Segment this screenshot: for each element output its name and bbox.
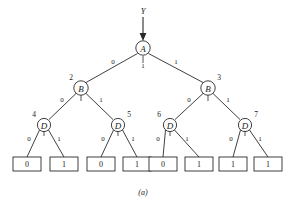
node-d5-index: 5 bbox=[127, 110, 131, 119]
edge-label-b2-left: 0 bbox=[60, 96, 64, 104]
node-d6-index: 6 bbox=[157, 110, 161, 119]
node-b2[interactable]: B 2 bbox=[69, 73, 88, 96]
node-d7[interactable]: D 7 bbox=[238, 110, 258, 132]
leaf-value-3: 0 bbox=[99, 160, 103, 169]
leaf-value-1: 0 bbox=[25, 160, 29, 169]
node-b3-letter: B bbox=[205, 84, 211, 94]
node-d7-index: 7 bbox=[254, 110, 258, 119]
input-arrow-group: Y bbox=[140, 6, 147, 41]
node-b2-index: 2 bbox=[69, 73, 73, 82]
node-b2-letter: B bbox=[78, 84, 84, 94]
leaf-node-6[interactable]: 1 bbox=[185, 157, 213, 171]
figure-container: Y 0 1 1 0 1 bbox=[0, 0, 287, 206]
node-a[interactable]: A bbox=[136, 41, 150, 55]
input-arrow-head bbox=[140, 33, 147, 41]
leaf-node-2[interactable]: 1 bbox=[50, 157, 78, 171]
edge-label-d5-right: 1 bbox=[131, 135, 135, 143]
leaf-node-5[interactable]: 0 bbox=[149, 157, 177, 171]
leaf-value-5: 0 bbox=[161, 160, 165, 169]
edge-label-b3-right: 1 bbox=[226, 96, 230, 104]
leaf-value-2: 1 bbox=[62, 160, 66, 169]
node-d4-index: 4 bbox=[32, 110, 36, 119]
node-d4-letter: D bbox=[40, 121, 48, 131]
edge-label-b3-left: 0 bbox=[187, 96, 191, 104]
edge-label-d7-left: 0 bbox=[229, 135, 233, 143]
leaf-node-7[interactable]: 1 bbox=[219, 157, 247, 171]
node-d4[interactable]: D 4 bbox=[32, 110, 50, 132]
node-d7-letter: D bbox=[241, 121, 249, 131]
node-d6[interactable]: D 6 bbox=[157, 110, 176, 132]
edge-d4-to-leaf2 bbox=[49, 130, 65, 157]
edge-label-b2-right: 1 bbox=[99, 96, 103, 104]
edge-d5-to-leaf4 bbox=[123, 130, 138, 157]
node-b3[interactable]: B 3 bbox=[201, 73, 221, 96]
node-d5-letter: D bbox=[114, 121, 122, 131]
leaf-node-8[interactable]: 1 bbox=[254, 157, 282, 171]
node-d5[interactable]: D 5 bbox=[111, 110, 131, 132]
edge-d6-to-leaf5 bbox=[163, 130, 166, 157]
edge-label-d4-left: 0 bbox=[27, 135, 31, 143]
figure-caption: (a) bbox=[138, 188, 148, 197]
edge-label-d6-left: 0 bbox=[156, 135, 160, 143]
edge-label-a-right: 1 bbox=[174, 58, 178, 66]
leaf-value-4: 1 bbox=[135, 160, 139, 169]
edge-d7-to-leaf7 bbox=[233, 130, 241, 157]
leaf-value-6: 1 bbox=[197, 160, 201, 169]
leaf-node-3[interactable]: 0 bbox=[87, 157, 115, 171]
leaf-node-4[interactable]: 1 bbox=[123, 157, 151, 171]
edge-label-d5-left: 0 bbox=[101, 135, 105, 143]
leaf-value-8: 1 bbox=[266, 160, 270, 169]
edge-label-d4-right: 1 bbox=[57, 135, 61, 143]
decision-tree-diagram: Y 0 1 1 0 1 bbox=[0, 0, 287, 206]
leaf-node-1[interactable]: 0 bbox=[13, 157, 41, 171]
node-b3-index: 3 bbox=[217, 73, 221, 82]
node-d6-letter: D bbox=[166, 121, 174, 131]
node-a-letter: A bbox=[139, 44, 146, 54]
edge-label-a-center: 1 bbox=[141, 62, 145, 70]
edge-label-a-left: 0 bbox=[111, 58, 115, 66]
edge-label-d7-right: 1 bbox=[258, 135, 262, 143]
input-label-y: Y bbox=[141, 6, 147, 16]
edge-label-d6-right: 1 bbox=[185, 135, 189, 143]
leaf-value-7: 1 bbox=[231, 160, 235, 169]
